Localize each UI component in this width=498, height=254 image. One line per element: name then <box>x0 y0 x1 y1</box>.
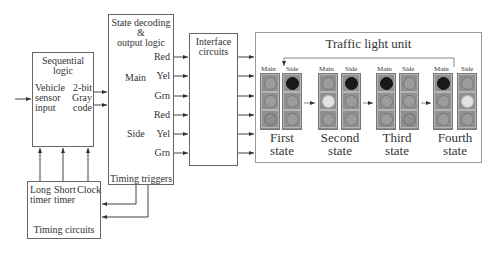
side-traffic-light <box>457 73 477 130</box>
long-timer-label: timer <box>30 195 51 205</box>
yellow-lamp-icon <box>380 95 393 108</box>
yellow-lamp-icon <box>403 95 416 108</box>
red-lamp-icon <box>437 77 450 90</box>
red-lamp-icon <box>403 77 416 90</box>
red-lamp-icon <box>345 77 358 90</box>
green-lamp-icon <box>264 113 277 126</box>
red-lamp-icon <box>322 77 335 90</box>
green-lamp-icon <box>380 113 393 126</box>
green-lamp-icon <box>345 113 358 126</box>
side-traffic-light <box>399 73 419 130</box>
short-timer-label: timer <box>54 195 75 205</box>
yellow-lamp-icon <box>461 95 474 108</box>
yellow-lamp-icon <box>437 95 450 108</box>
side-light-label: Side <box>402 66 414 73</box>
side-traffic-light <box>341 73 361 130</box>
state-label: state <box>252 144 312 157</box>
green-lamp-icon <box>437 113 450 126</box>
main-light-label: Main <box>377 66 392 73</box>
state-label: state <box>367 144 427 157</box>
main-traffic-light <box>433 73 453 130</box>
red-lamp-icon <box>380 77 393 90</box>
state-label: state <box>425 144 485 157</box>
state-label: state <box>310 144 370 157</box>
green-lamp-icon <box>403 113 416 126</box>
main-light-label: Main <box>319 66 334 73</box>
side-light-label: Side <box>286 66 298 73</box>
timing-circuits-title: Timing circuits <box>27 225 101 235</box>
side-light-label: Side <box>345 66 357 73</box>
green-lamp-icon <box>461 113 474 126</box>
red-lamp-icon <box>264 77 277 90</box>
main-light-label: Main <box>261 66 276 73</box>
main-traffic-light <box>260 73 280 130</box>
yellow-lamp-icon <box>264 95 277 108</box>
yellow-lamp-icon <box>322 95 335 108</box>
side-traffic-light <box>282 73 302 130</box>
yellow-lamp-icon <box>345 95 358 108</box>
main-traffic-light <box>376 73 396 130</box>
green-lamp-icon <box>322 113 335 126</box>
yellow-lamp-icon <box>286 95 299 108</box>
red-lamp-icon <box>461 77 474 90</box>
red-lamp-icon <box>286 77 299 90</box>
main-traffic-light <box>318 73 338 130</box>
side-light-label: Side <box>461 66 473 73</box>
green-lamp-icon <box>286 113 299 126</box>
clock-label: Clock <box>77 185 101 195</box>
main-light-label: Main <box>434 66 449 73</box>
